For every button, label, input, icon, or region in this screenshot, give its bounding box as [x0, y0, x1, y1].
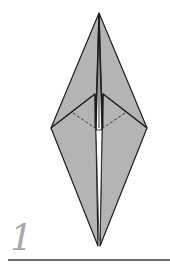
origami-model [51, 13, 147, 246]
step-number: 1 [10, 220, 33, 256]
step-divider-rule [8, 259, 170, 261]
